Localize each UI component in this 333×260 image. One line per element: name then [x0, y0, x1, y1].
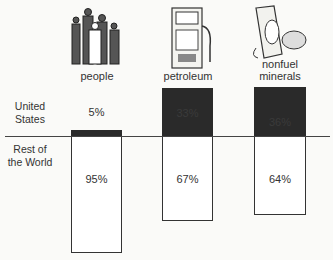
category-label-people: people	[62, 70, 132, 82]
rw-bar-people	[71, 137, 122, 253]
value-rw-people: 95%	[71, 173, 122, 185]
value-us-people: 5%	[71, 106, 122, 118]
row-label-rw-2: the World	[0, 156, 60, 169]
category-label-minerals: minerals	[245, 70, 315, 82]
people-illustration-icon	[68, 6, 124, 66]
category-label-petroleum: petroleum	[153, 70, 223, 82]
value-us-minerals: 36%	[254, 116, 306, 128]
gas-pump-illustration-icon	[168, 6, 216, 70]
row-label-us-1: United	[0, 100, 60, 113]
value-rw-petroleum: 67%	[162, 173, 213, 185]
category-label-nonfuel: nonfuel	[245, 58, 315, 70]
row-label-rw-1: Rest of	[0, 143, 60, 156]
row-label-us-2: States	[0, 113, 60, 126]
us-bar-minerals	[254, 87, 306, 137]
mineral-can-illustration-icon	[248, 4, 310, 60]
value-rw-minerals: 64%	[254, 173, 306, 185]
value-us-petroleum: 33%	[162, 107, 213, 119]
